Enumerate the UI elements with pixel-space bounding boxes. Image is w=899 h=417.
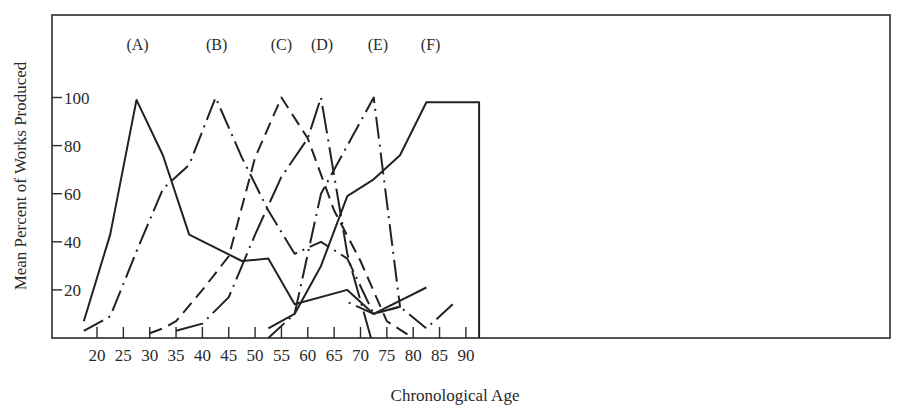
series-label: (E) [368,36,388,54]
y-tick-label: 80 [64,137,81,156]
x-tick-label: 70 [352,346,369,365]
series-label: (B) [206,36,227,54]
x-tick-label: 90 [457,346,474,365]
x-tick-label: 85 [431,346,448,365]
x-tick-label: 40 [194,346,211,365]
series-line-e [268,98,400,339]
series-label: (A) [126,36,148,54]
y-tick-label: 60 [64,185,81,204]
series-line-f [268,102,479,338]
series-label: (C) [271,36,292,54]
x-tick-label: 45 [220,346,237,365]
y-axis: 20406080100 [52,89,90,300]
y-tick-label: 40 [64,233,81,252]
y-tick-label: 100 [64,89,90,108]
x-tick-label: 80 [405,346,422,365]
series-label: (F) [421,36,441,54]
x-tick-label: 60 [299,346,316,365]
series-line-b [84,98,453,331]
x-axis: 202530354045505560657075808590 [89,327,475,365]
x-tick-label: 55 [273,346,290,365]
x-tick-label: 20 [89,346,106,365]
x-tick-label: 65 [326,346,343,365]
line-chart: 20406080100 2025303540455055606570758085… [0,0,899,417]
chart-container: 20406080100 2025303540455055606570758085… [0,0,899,417]
series-lines [84,98,479,339]
series-line-c [150,98,414,339]
series-labels: (A)(B)(C)(D)(E)(F) [126,36,440,54]
y-axis-title: Mean Percent of Works Produced [11,61,30,290]
series-line-a [84,100,427,321]
y-tick-label: 20 [64,281,81,300]
x-tick-label: 50 [247,346,264,365]
x-tick-label: 30 [141,346,158,365]
x-tick-label: 35 [168,346,185,365]
x-axis-title: Chronological Age [391,386,520,405]
series-label: (D) [311,36,333,54]
x-tick-label: 25 [115,346,132,365]
x-tick-label: 75 [378,346,395,365]
